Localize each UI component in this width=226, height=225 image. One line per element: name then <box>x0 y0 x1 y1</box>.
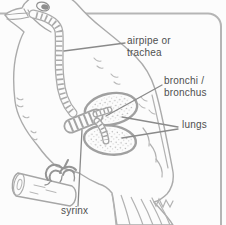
diagram-canvas: airpipe or trachea bronchi / bronchus lu… <box>0 0 226 225</box>
syrinx-shape <box>70 116 97 127</box>
label-syrinx: syrinx <box>61 205 101 217</box>
label-airpipe-trachea: airpipe or trachea <box>127 35 179 58</box>
branch-perch <box>12 173 76 206</box>
bird-anatomy-illustration <box>0 0 226 225</box>
label-bronchi-bronchus: bronchi / bronchus <box>164 75 214 98</box>
label-lungs: lungs <box>182 119 222 131</box>
